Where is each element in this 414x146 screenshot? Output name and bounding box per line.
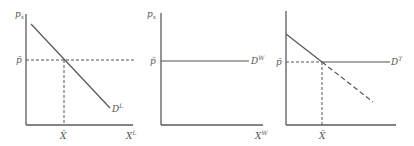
price-label: p̄ — [276, 57, 282, 67]
demand-curve-extension-dashed — [322, 62, 373, 102]
quantity-label: X̄ — [318, 130, 326, 141]
x-axis-label: XL — [125, 129, 136, 141]
x-axis-label: XW — [254, 129, 268, 141]
panel-world-demand: px p̄ DW XW — [147, 9, 268, 141]
price-label: p̄ — [150, 56, 156, 66]
curve-label: DW — [250, 54, 265, 66]
demand-diagram: px p̄ X̄ XL DL px p̄ DW XW p̄ X̄ DT — [0, 0, 414, 146]
demand-curve-total-sloped — [286, 34, 322, 62]
curve-label: DT — [390, 55, 403, 67]
panel-local-demand: px p̄ X̄ XL DL — [15, 9, 136, 141]
y-axis-label: px — [15, 9, 25, 20]
panel-total-demand: p̄ X̄ DT — [276, 11, 403, 141]
y-axis-label: px — [147, 9, 157, 20]
demand-curve-local — [31, 24, 110, 108]
quantity-label: X̄ — [59, 130, 67, 141]
price-label: p̄ — [16, 55, 22, 65]
curve-label: DL — [111, 102, 123, 114]
